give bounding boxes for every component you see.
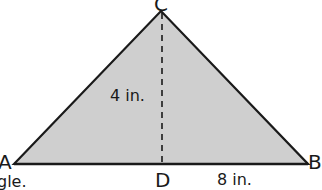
height-label: 4 in. — [110, 88, 145, 104]
partial-caption-text: gle. — [0, 174, 27, 190]
vertex-label-c: C — [154, 0, 168, 14]
triangle-diagram — [0, 0, 322, 190]
vertex-label-d: D — [155, 170, 170, 190]
vertex-label-b: B — [308, 152, 322, 172]
segment-db-label: 8 in. — [217, 172, 252, 188]
vertex-label-a: A — [0, 152, 12, 172]
triangle-abc — [14, 11, 308, 164]
